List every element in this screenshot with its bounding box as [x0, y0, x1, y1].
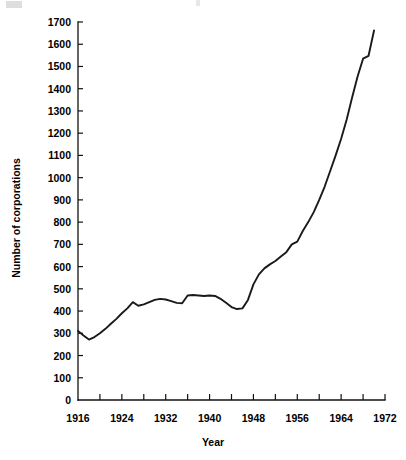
- y-axis-tick-label: 1200: [48, 127, 72, 139]
- y-axis-tick-label: 700: [53, 238, 71, 250]
- scan-artifact-top-left: [6, 1, 22, 8]
- chart-figure: Number of corporations 01002003004005006…: [0, 0, 406, 460]
- x-axis-title: Year: [202, 436, 224, 448]
- y-axis-tick-labels: 0100200300400500600700800900100011001200…: [48, 16, 72, 406]
- data-series-line: [78, 30, 374, 339]
- y-axis-tick-label: 1500: [48, 60, 72, 72]
- x-axis-tick-label: 1932: [154, 412, 178, 424]
- y-axis-tick-label: 800: [53, 216, 71, 228]
- x-axis-tick-label: 1972: [373, 412, 397, 424]
- x-axis-tick-marks: [100, 394, 385, 400]
- y-axis-tick-label: 600: [53, 261, 71, 273]
- y-axis-tick-label: 400: [53, 305, 71, 317]
- x-axis-tick-labels: 19161924193219401948195619641972: [66, 412, 397, 424]
- y-axis-tick-label: 900: [53, 194, 71, 206]
- y-axis-tick-marks: [78, 22, 83, 378]
- line-chart: Number of corporations 01002003004005006…: [0, 0, 406, 460]
- y-axis-tick-label: 1300: [48, 105, 72, 117]
- y-axis-tick-label: 1000: [48, 172, 72, 184]
- y-axis-tick-label: 500: [53, 283, 71, 295]
- y-axis-tick-label: 1600: [48, 38, 72, 50]
- y-axis-tick-label: 1100: [48, 149, 71, 161]
- y-axis-tick-label: 200: [53, 350, 71, 362]
- x-axis-tick-label: 1964: [329, 412, 353, 424]
- y-axis-tick-label: 1700: [48, 16, 72, 28]
- x-axis-tick-label: 1924: [110, 412, 134, 424]
- x-axis-tick-label: 1956: [286, 412, 310, 424]
- scan-artifact-top: [196, 0, 200, 6]
- x-axis-tick-label: 1948: [242, 412, 266, 424]
- x-axis-tick-label: 1940: [198, 412, 222, 424]
- y-axis-tick-label: 300: [53, 327, 71, 339]
- y-axis-tick-label: 100: [53, 372, 71, 384]
- y-axis-title: Number of corporations: [10, 158, 22, 278]
- y-axis-tick-label: 1400: [48, 83, 72, 95]
- y-axis-tick-label: 0: [65, 394, 71, 406]
- x-axis-tick-label: 1916: [66, 412, 90, 424]
